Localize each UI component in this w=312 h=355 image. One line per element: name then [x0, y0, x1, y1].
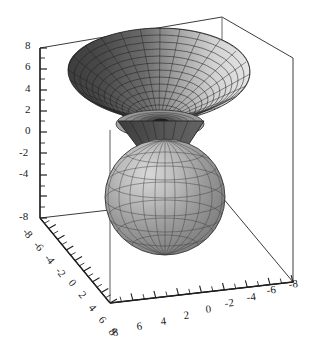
z-axis: 86420-2-4-8: [19, 39, 47, 222]
z-axis-major-ticks: [40, 48, 47, 218]
z-tick-label-6: -4: [19, 167, 29, 179]
z-tick-label-1: 6: [25, 60, 31, 72]
plot-figure: 86420-2-4-8: [0, 0, 312, 355]
z-tick-label-5: -2: [19, 146, 28, 158]
x-tick-label-3: 2: [183, 308, 190, 321]
z-tick-label-4: 0: [25, 124, 31, 136]
x-axis: 86420-2-4-6-8: [110, 275, 299, 338]
z-axis-tick-labels: 86420-2-4-8: [19, 39, 31, 222]
y-tick-label-5: 2: [76, 289, 89, 301]
y-tick-label-7: 6: [96, 314, 109, 326]
x-tick-label-2: 4: [160, 314, 167, 327]
y-tick-label-2: -4: [42, 252, 57, 267]
y-tick-label-1: -6: [31, 239, 46, 254]
x-tick-label-5: -2: [224, 296, 234, 309]
x-tick-label-6: -4: [246, 290, 257, 303]
plot-canvas: 86420-2-4-8: [0, 0, 312, 355]
x-axis-tick-labels: 86420-2-4-6-8: [112, 277, 299, 338]
y-axis: -8-6-4-202468: [20, 218, 119, 338]
surface-lower-sphere: [105, 139, 225, 255]
y-tick-label-0: -8: [20, 226, 35, 241]
y-tick-label-3: -2: [53, 265, 68, 280]
x-tick-label-7: -6: [266, 283, 277, 296]
y-axis-tick-labels: -8-6-4-202468: [20, 226, 119, 338]
z-tick-label-0: 8: [25, 39, 31, 51]
x-tick-label-8: -8: [288, 277, 299, 290]
x-tick-label-4: 0: [205, 302, 212, 315]
x-tick-label-1: 6: [136, 319, 143, 332]
z-tick-label-7: -8: [19, 210, 29, 222]
z-tick-label-2: 4: [25, 82, 31, 94]
z-tick-label-3: 2: [25, 103, 31, 115]
y-tick-label-6: 4: [86, 302, 99, 314]
y-tick-label-4: 0: [66, 277, 79, 289]
